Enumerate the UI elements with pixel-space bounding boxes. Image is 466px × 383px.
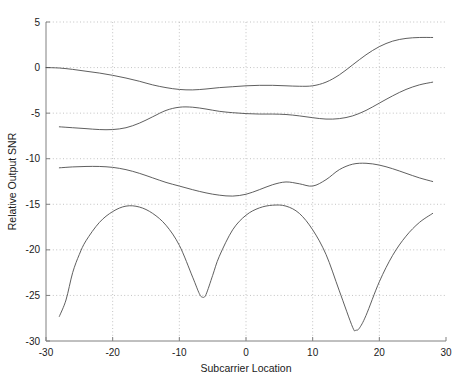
x-tick-label: -10 [172, 347, 187, 358]
y-tick-label: 0 [34, 62, 40, 73]
x-tick-label: -30 [39, 347, 54, 358]
axis-labels: -30-20-100102030-30-25-20-15-10-505Subca… [6, 17, 452, 375]
series-line-curve-4 [59, 205, 432, 331]
y-tick-label: -25 [26, 290, 41, 301]
y-tick-label: 5 [34, 17, 40, 28]
x-axis-title: Subcarrier Location [200, 362, 291, 374]
y-tick-label: -20 [26, 244, 41, 255]
x-tick-label: 30 [440, 347, 452, 358]
line-chart: -30-20-100102030-30-25-20-15-10-505Subca… [0, 0, 466, 383]
series-line-curve-1 [46, 37, 433, 89]
series-layer [46, 37, 433, 331]
y-axis-title: Relative Output SNR [6, 132, 18, 230]
chart-figure: -30-20-100102030-30-25-20-15-10-505Subca… [0, 0, 466, 383]
x-tick-label: -20 [105, 347, 120, 358]
y-tick-label: -5 [31, 108, 40, 119]
x-tick-label: 10 [307, 347, 319, 358]
y-tick-label: -10 [26, 153, 41, 164]
x-tick-label: 20 [374, 347, 386, 358]
series-line-curve-2 [59, 82, 432, 130]
grid-layer [46, 22, 446, 341]
x-tick-label: 0 [243, 347, 249, 358]
y-tick-label: -15 [26, 199, 41, 210]
y-tick-label: -30 [26, 336, 41, 347]
series-line-curve-3 [59, 163, 432, 196]
